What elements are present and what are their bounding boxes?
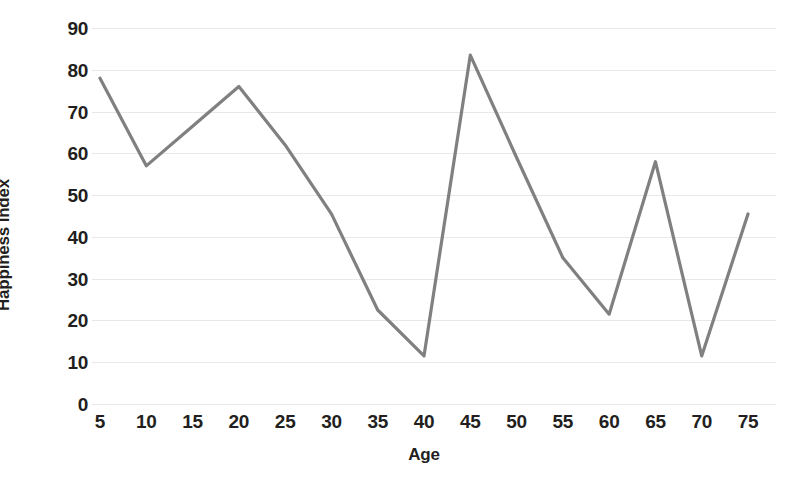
series-line-happiness-index — [100, 55, 748, 356]
x-axis-title: Age — [100, 445, 748, 465]
plot-area — [0, 0, 794, 490]
line-chart: Happiness Index 0102030405060708090 5101… — [0, 0, 794, 490]
